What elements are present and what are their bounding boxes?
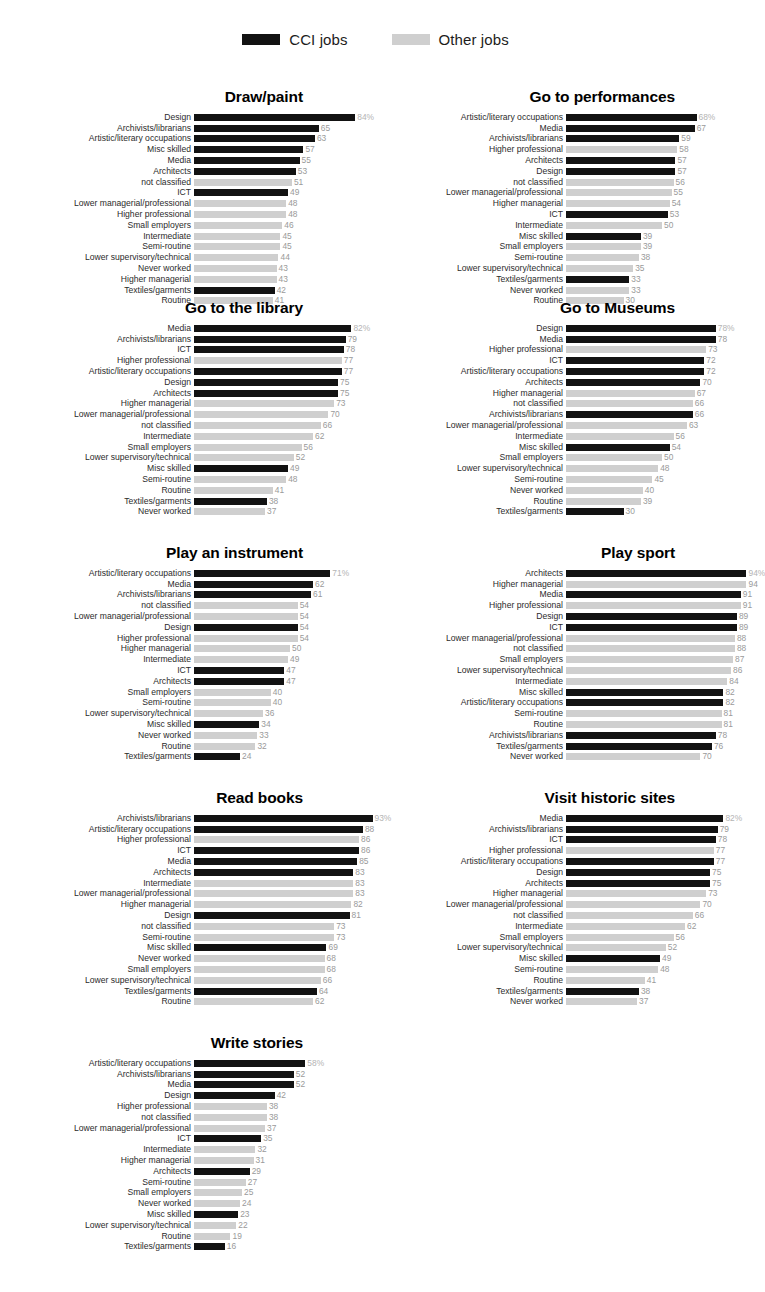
bar-track: 56: [566, 431, 735, 442]
bar-track: 75: [194, 377, 361, 388]
bar-other: [566, 847, 714, 854]
bar-value-label: 38: [267, 497, 278, 506]
bar-track: 69: [194, 943, 361, 954]
bar-category-label: Semi-routine: [390, 709, 566, 718]
bar-track: 34: [194, 719, 361, 730]
bar-value-label: 71%: [330, 569, 349, 578]
bar-category-label: not classified: [390, 399, 566, 408]
chart-bar-row: Artistic/literary occupations77: [390, 856, 735, 867]
bar-track: 48: [194, 474, 361, 485]
bar-track: 58: [566, 144, 735, 155]
bar-category-label: Architects: [16, 1167, 194, 1176]
bar-track: 67: [566, 388, 735, 399]
bar-category-label: Artistic/literary occupations: [16, 1059, 194, 1068]
chart-bar-row: Media78: [390, 334, 735, 345]
bar-value-label: 36: [263, 709, 274, 718]
bar-track: 70: [194, 409, 361, 420]
bar-value-label: 82: [723, 698, 734, 707]
chart-bar-row: Media91: [390, 590, 735, 601]
bar-track: 68%: [566, 112, 735, 123]
chart-bar-row: Architects53: [16, 166, 361, 177]
chart-bar-row: Never worked70: [390, 752, 735, 763]
bar-value-label: 61: [311, 590, 322, 599]
chart-bar-row: Artistic/literary occupations71%: [16, 568, 361, 579]
bar-track: 54: [566, 198, 735, 209]
bar-value-label: 75: [710, 868, 721, 877]
bar-track: 62: [566, 921, 735, 932]
bar-category-label: Lower managerial/professional: [16, 889, 194, 898]
bar-category-label: Intermediate: [390, 677, 566, 686]
bar-cci: [566, 570, 746, 577]
bar-category-label: not classified: [16, 922, 194, 931]
bar-category-label: Textiles/garments: [390, 987, 566, 996]
bar-cci: [566, 135, 679, 142]
chart-bar-row: Higher managerial43: [16, 274, 361, 285]
bar-category-label: Media: [390, 814, 566, 823]
bar-other: [566, 498, 641, 505]
bar-track: 37: [194, 507, 361, 518]
bar-other: [566, 710, 722, 717]
bar-track: 45: [194, 242, 361, 253]
bar-track: 48: [194, 209, 361, 220]
legend-item-cci: CCI jobs: [242, 31, 347, 48]
bar-category-label: Lower managerial/professional: [16, 199, 194, 208]
chart-bar-row: Media67: [390, 123, 735, 134]
chart-bar-row: Intermediate49: [16, 654, 361, 665]
bar-category-label: Intermediate: [16, 655, 194, 664]
bar-other: [566, 254, 639, 261]
bar-category-label: Design: [16, 113, 194, 122]
bar-cci: [566, 988, 639, 995]
bar-category-label: Design: [390, 324, 566, 333]
bar-cci: [566, 836, 716, 843]
bar-track: 53: [566, 209, 735, 220]
bar-track: 33: [566, 274, 735, 285]
bar-value-label: 40: [643, 486, 654, 495]
bar-category-label: Architects: [16, 389, 194, 398]
bar-value-label: 82%: [351, 324, 370, 333]
bar-track: 78: [194, 345, 361, 356]
bar-value-label: 75: [338, 378, 349, 387]
bar-track: 35: [194, 1134, 361, 1145]
bar-cci: [194, 287, 275, 294]
bar-value-label: 66: [321, 421, 332, 430]
bar-other: [194, 1103, 267, 1110]
bar-other: [194, 966, 325, 973]
bar-category-label: Archivists/librarians: [390, 731, 566, 740]
bar-category-label: Routine: [390, 720, 566, 729]
bar-track: 39: [566, 496, 735, 507]
bar-value-label: 62: [313, 997, 324, 1006]
bar-value-label: 67: [695, 124, 706, 133]
bar-other: [194, 1189, 242, 1196]
bar-track: 81: [194, 910, 361, 921]
bar-value-label: 54: [298, 612, 309, 621]
bar-track: 91: [566, 590, 752, 601]
bar-category-label: Higher managerial: [390, 580, 566, 589]
bar-value-label: 54: [670, 443, 681, 452]
bar-value-label: 83: [353, 879, 364, 888]
bar-cci: [194, 858, 357, 865]
chart-bar-row: Semi-routine73: [16, 932, 361, 943]
bar-cci: [194, 753, 240, 760]
bar-other: [566, 602, 741, 609]
bar-track: 68: [194, 964, 361, 975]
bar-value-label: 56: [674, 178, 685, 187]
bar-track: 54: [194, 622, 361, 633]
bar-value-label: 54: [298, 601, 309, 610]
bar-value-label: 52: [294, 1080, 305, 1089]
bar-category-label: Small employers: [16, 221, 194, 230]
bar-other: [194, 487, 273, 494]
bar-value-label: 56: [674, 933, 685, 942]
bar-value-label: 70: [700, 900, 711, 909]
bar-category-label: Lower supervisory/technical: [390, 464, 566, 473]
bar-track: 48: [194, 198, 361, 209]
chart-bar-row: Lower supervisory/technical22: [16, 1220, 361, 1231]
bar-category-label: Higher professional: [16, 634, 194, 643]
bar-value-label: 59: [679, 134, 690, 143]
bar-value-label: 56: [674, 432, 685, 441]
bar-cci: [194, 336, 346, 343]
bar-category-label: not classified: [390, 178, 566, 187]
bar-other: [194, 656, 288, 663]
bar-category-label: Architects: [16, 677, 194, 686]
chart-panel: Go to the libraryMedia82%Archivists/libr…: [16, 299, 361, 517]
bar-track: 33: [566, 285, 735, 296]
